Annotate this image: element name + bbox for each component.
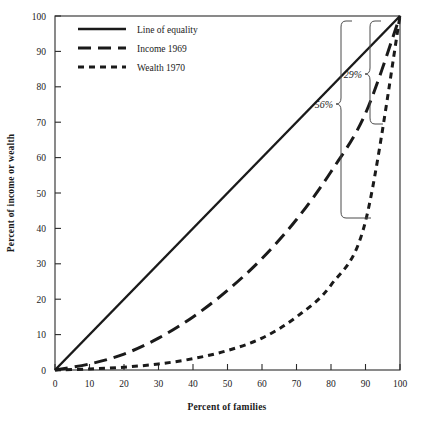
x-tick-label: 70 [292, 379, 302, 389]
x-tick-label: 60 [257, 379, 267, 389]
legend-label-1: Income 1969 [137, 44, 187, 54]
annotation-brackets [336, 21, 383, 218]
legend-label-0: Line of equality [137, 25, 198, 35]
x-tick-label: 20 [119, 379, 129, 389]
y-tick-label: 30 [37, 259, 47, 269]
y-tick-label: 20 [37, 295, 47, 305]
annotation-label-56: 56% [315, 99, 333, 110]
x-tick-label: 80 [326, 379, 336, 389]
chart-container: 0102030405060708090100 01020304050607080… [0, 0, 422, 421]
y-tick-label: 80 [37, 82, 47, 92]
legend-label-2: Wealth 1970 [137, 63, 185, 73]
x-tick-label: 0 [53, 379, 58, 389]
x-axis-label: Percent of families [187, 402, 266, 412]
x-tick-label: 50 [223, 379, 233, 389]
y-tick-label: 10 [37, 330, 47, 340]
y-tick-label: 60 [37, 153, 47, 163]
x-tick-label: 90 [361, 379, 371, 389]
chart-legend: Line of equalityIncome 1969Wealth 1970 [78, 25, 198, 73]
x-tick-label: 100 [393, 379, 408, 389]
x-tick-label: 40 [188, 379, 198, 389]
y-tick-label: 70 [37, 118, 47, 128]
y-axis-tick-labels: 0102030405060708090100 [32, 12, 47, 376]
x-axis-tick-labels: 0102030405060708090100 [53, 379, 408, 389]
y-tick-label: 90 [37, 47, 47, 57]
lorenz-curve-chart: 0102030405060708090100 01020304050607080… [0, 0, 422, 421]
y-tick-label: 0 [41, 366, 46, 376]
y-tick-label: 50 [37, 189, 47, 199]
x-tick-label: 10 [85, 379, 95, 389]
y-axis-label: Percent of income or wealth [6, 133, 16, 252]
y-tick-label: 40 [37, 224, 47, 234]
x-tick-label: 30 [154, 379, 164, 389]
y-axis-ticks [55, 16, 61, 335]
y-tick-label: 100 [32, 12, 47, 22]
x-axis-ticks [55, 364, 400, 370]
annotation-label-29: 29% [344, 69, 362, 80]
